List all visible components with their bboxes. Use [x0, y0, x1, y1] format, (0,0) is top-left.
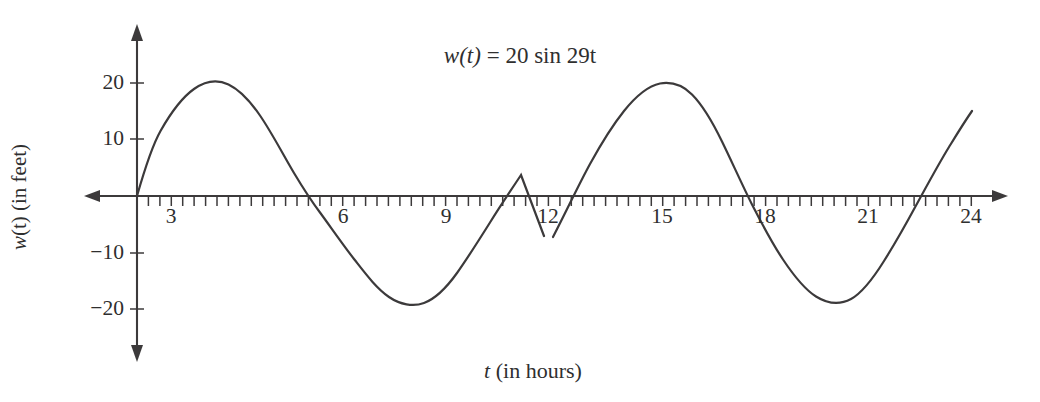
x-tick-label-21: 21 — [857, 206, 879, 228]
y-axis-title: w(t) (in feet) — [7, 91, 32, 197]
x-tick-label-12: 12 — [537, 206, 559, 228]
equation-rest: = 20 sin 29t — [481, 43, 596, 68]
x-axis-title-rest: (in hours) — [490, 358, 582, 383]
y-axis-down-arrow-icon — [131, 345, 143, 362]
sine-curve-branch-2 — [553, 83, 972, 303]
x-tick-label-15: 15 — [651, 206, 673, 228]
x-axis-right-arrow-icon — [992, 190, 1008, 202]
y-tick-label-neg-10: −10 — [78, 242, 124, 264]
x-axis-title: t (in hours) — [484, 358, 582, 384]
y-tick-label-10: 10 — [92, 128, 124, 150]
equation-paren-t: (t) — [459, 43, 481, 68]
y-axis-up-arrow-icon — [131, 24, 143, 41]
sine-graph-figure: w(t) = 20 sin 29t 3 6 9 12 15 18 21 24 2… — [0, 0, 1040, 402]
x-axis-left-arrow-icon — [84, 190, 100, 202]
y-tick-label-neg-20: −20 — [78, 298, 124, 320]
x-tick-marks — [148, 196, 971, 206]
x-tick-label-6: 6 — [338, 206, 349, 228]
y-axis-title-var: w — [7, 236, 31, 250]
equation-label: w(t) = 20 sin 29t — [444, 43, 596, 69]
y-axis-title-rest: (t) (in feet) — [7, 144, 31, 236]
y-tick-label-20: 20 — [92, 72, 124, 94]
sine-curve-branch-1 — [137, 81, 544, 304]
x-tick-label-24: 24 — [960, 206, 982, 228]
x-tick-label-18: 18 — [754, 206, 776, 228]
x-tick-label-3: 3 — [166, 206, 177, 228]
equation-w: w — [444, 43, 459, 68]
x-tick-label-9: 9 — [441, 206, 452, 228]
